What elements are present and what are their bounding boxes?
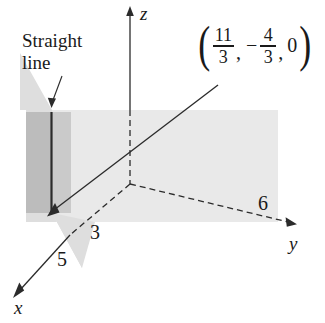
y-axis-label: y — [289, 233, 297, 254]
close-paren: ) — [300, 24, 312, 65]
minus-sign: − — [246, 34, 257, 57]
x-intercept-3-label: 3 — [90, 221, 100, 243]
y-intercept-6-label: 6 — [258, 192, 268, 214]
point-coordinate-label: ( 11 3 , − 4 3 , 0 ) — [196, 26, 314, 66]
z-axis-arrowhead — [126, 6, 134, 16]
straight-line-caption: Straight line — [22, 30, 82, 75]
x-numerator: 11 — [213, 26, 234, 44]
z-axis-label: z — [140, 3, 147, 24]
vertical-plane-dark — [26, 112, 52, 213]
vertical-plane-dark-slant — [52, 112, 71, 213]
straight-line-caption-line1: Straight — [22, 30, 82, 52]
x-intercept-5-label: 5 — [57, 248, 67, 270]
y-numerator: 4 — [262, 26, 275, 44]
straight-line-leader — [53, 76, 62, 100]
open-paren: ( — [198, 24, 210, 65]
z-coordinate-value: 0 — [287, 34, 297, 57]
y-coordinate-fraction: 4 3 — [260, 26, 276, 66]
y-denominator: 3 — [262, 48, 275, 66]
comma-1: , — [236, 41, 241, 66]
x-axis-label: x — [14, 297, 22, 318]
x-axis-arrowhead — [13, 282, 24, 298]
x-coordinate-fraction: 11 3 — [213, 26, 234, 66]
comma-2: , — [278, 41, 283, 66]
coordinate-diagram: Straight line z y x 3 5 6 ( 11 3 , − 4 3… — [0, 0, 325, 323]
straight-line-caption-line2: line — [22, 52, 82, 74]
x-denominator: 3 — [217, 48, 230, 66]
y-axis-arrowhead — [286, 217, 297, 227]
